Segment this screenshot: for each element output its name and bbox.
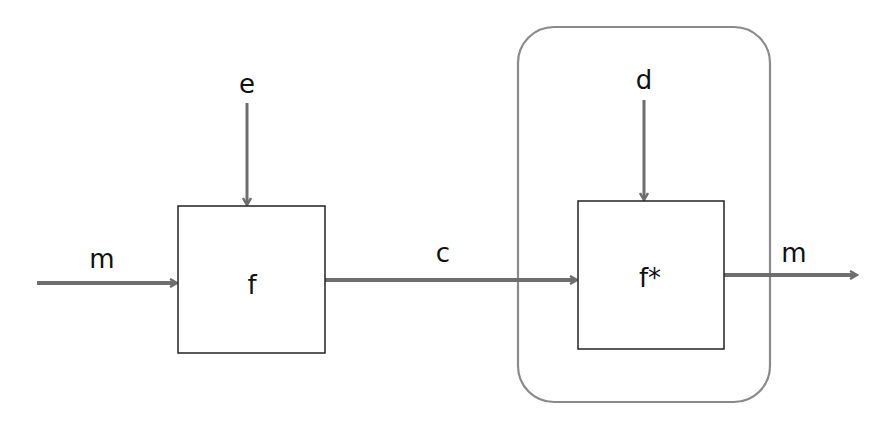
signal-e-label: e <box>239 69 255 99</box>
block-f-label: f <box>247 270 257 300</box>
signal-d-label: d <box>636 65 653 95</box>
diagram-canvas: f f* m e c d m <box>0 0 884 426</box>
signal-m-output-label: m <box>781 238 806 268</box>
signal-m-input-label: m <box>89 244 114 274</box>
block-f-star-label: f* <box>639 263 661 293</box>
signal-c-label: c <box>436 238 450 268</box>
